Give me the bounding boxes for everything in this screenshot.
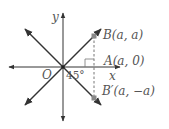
point-b-label: B(a, a) <box>102 28 143 42</box>
point-b-prime-label: B′(a, −a) <box>101 84 155 98</box>
right-angle-marker <box>85 59 94 67</box>
origin-label: O <box>42 68 52 82</box>
coordinate-diagram: y x O 45° B(a, a) A(a, 0) B′(a, −a) <box>0 0 169 129</box>
y-axis-label: y <box>51 10 59 24</box>
angle-label: 45° <box>66 69 85 81</box>
point-b-prime <box>92 96 97 101</box>
origin-point <box>61 65 65 69</box>
point-b <box>92 34 97 39</box>
point-a-label: A(a, 0) <box>103 54 145 68</box>
x-axis-label: x <box>109 69 116 83</box>
